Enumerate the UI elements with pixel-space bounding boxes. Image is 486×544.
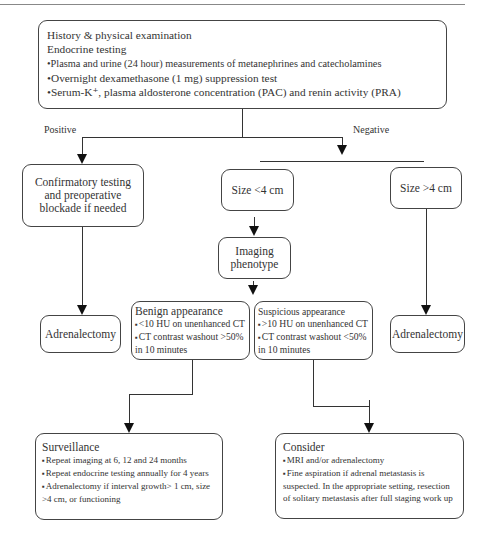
size-over-4cm-box: Size >4 cm <box>390 167 462 209</box>
imaging-phenotype-box: Imaging phenotype <box>218 237 291 279</box>
surveillance-item: Adrenalectomy if interval growth> 1 cm, … <box>42 480 218 505</box>
endocrine-testing-text: Endocrine testing <box>47 42 446 56</box>
suspicious-item: CT contrast washout <50% <box>258 331 370 344</box>
surveillance-arrow-head <box>124 423 134 433</box>
size-large-arrow-line <box>426 209 427 306</box>
consider-arrow-line <box>369 400 370 424</box>
confirmatory-testing-text: Confirmatory testing and preoperative bl… <box>27 176 139 215</box>
positive-arrow-line <box>82 137 83 155</box>
history-exam-text: History & physical examination <box>47 28 446 42</box>
size-under-4cm-box: Size <4 cm <box>221 169 294 211</box>
confirmatory-testing-box: Confirmatory testing and preoperative bl… <box>22 164 144 227</box>
benign-item: <10 HU on unenhanced CT <box>135 318 247 331</box>
suspicious-item: >10 HU on unenhanced CT <box>258 318 370 331</box>
test-item-metanephrines: Plasma and urine (24 hour) measurements … <box>47 57 446 71</box>
consider-item: Fine aspiration if adrenal metastasis is… <box>283 467 459 504</box>
suspicious-title: Suspicious appearance <box>258 306 370 318</box>
benign-connector-horizontal <box>129 394 193 395</box>
positive-arrow-head <box>77 154 87 164</box>
suspicious-connector-horizontal <box>313 406 370 407</box>
surveillance-item: Repeat imaging at 6, 12 and 24 months <box>42 454 218 467</box>
connector-branch-horizontal <box>82 137 343 138</box>
size-under-4cm-text: Size <4 cm <box>232 184 284 197</box>
consider-item: MRI and/or adrenalectomy <box>283 454 459 467</box>
surveillance-arrow-line <box>129 394 130 424</box>
negative-arrow-head <box>337 145 347 155</box>
negative-split-line <box>260 161 424 162</box>
suspicious-tail: in 10 minutes <box>258 344 370 356</box>
size-large-arrow-head <box>421 305 431 315</box>
imaging-arrow-head <box>248 285 258 295</box>
imaging-phenotype-text: Imaging phenotype <box>225 245 284 271</box>
positive-label: Positive <box>44 124 76 135</box>
consider-box: Consider MRI and/or adrenalectomy Fine a… <box>275 433 464 519</box>
consider-arrow-head <box>364 423 374 433</box>
benign-tail: in 10 minutes <box>135 344 247 356</box>
connector-top-vertical <box>242 109 243 137</box>
page-top-rule <box>0 4 465 5</box>
benign-appearance-box: Benign appearance <10 HU on unenhanced C… <box>131 301 250 360</box>
adrenalectomy-right-box: Adrenalectomy <box>390 315 465 353</box>
adrenalectomy-right-text: Adrenalectomy <box>392 328 463 341</box>
test-item-dexamethasone: Overnight dexamethasone (1 mg) suppressi… <box>47 71 446 85</box>
benign-title: Benign appearance <box>135 305 247 318</box>
benign-connector-vertical <box>192 360 193 394</box>
surveillance-item: Repeat endocrine testing annually for 4 … <box>42 467 218 480</box>
confirmatory-arrow-head <box>77 305 87 315</box>
consider-title: Consider <box>283 441 459 454</box>
test-item-aldosterone: Serum-K⁺, plasma aldosterone concentrati… <box>47 85 446 99</box>
suspicious-connector-vertical <box>313 360 314 406</box>
suspicious-appearance-box: Suspicious appearance >10 HU on unenhanc… <box>254 301 373 360</box>
negative-label: Negative <box>353 124 389 135</box>
size-over-4cm-text: Size >4 cm <box>400 182 452 195</box>
initial-evaluation-box: History & physical examination Endocrine… <box>38 20 447 109</box>
adrenalectomy-left-box: Adrenalectomy <box>40 315 121 353</box>
surveillance-box: Surveillance Repeat imaging at 6, 12 and… <box>35 433 223 520</box>
size-small-arrow-head <box>249 226 259 236</box>
adrenalectomy-left-text: Adrenalectomy <box>45 328 116 341</box>
surveillance-title: Surveillance <box>42 441 218 454</box>
benign-item: CT contrast washout >50% <box>135 331 247 344</box>
confirmatory-arrow-line <box>82 227 83 307</box>
